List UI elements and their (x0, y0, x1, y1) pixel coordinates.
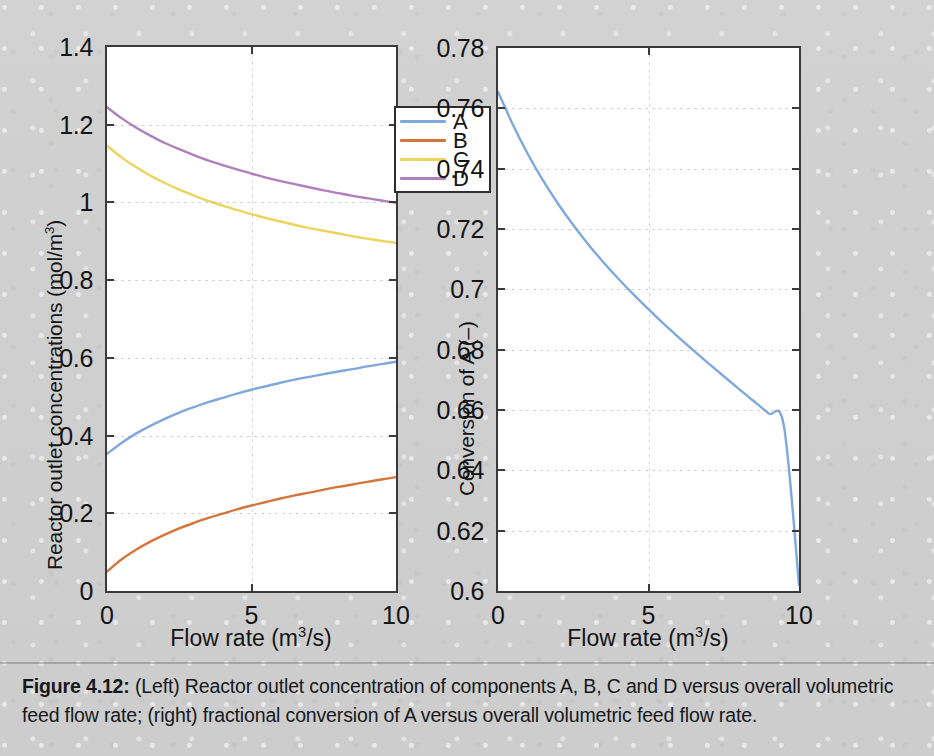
axis-tick (389, 512, 396, 514)
x-tick-label: 0 (491, 601, 505, 630)
axis-tick (251, 47, 253, 54)
axis-tick (498, 228, 505, 230)
y-tick-label: 0.62 (400, 516, 484, 545)
axis-tick (107, 435, 114, 437)
gridline-vertical (252, 47, 253, 591)
axis-tick (792, 409, 799, 411)
axis-tick (107, 201, 114, 203)
x-tick-label: 10 (785, 601, 813, 630)
axis-tick (389, 279, 396, 281)
right-plot-y-axis-label: Conversion of A (–) (455, 321, 479, 496)
axis-tick (107, 357, 114, 359)
axis-tick (389, 201, 396, 203)
left-plot-x-axis-label: Flow rate (m3/s) (170, 624, 332, 652)
right-plot-panel (496, 46, 801, 593)
axis-tick (792, 228, 799, 230)
axis-tick (498, 288, 505, 290)
figure-caption-label: Figure 4.12: (22, 675, 130, 697)
axis-tick (792, 349, 799, 351)
axis-tick (792, 107, 799, 109)
y-tick-label: 0.6 (400, 577, 484, 606)
y-tick-label: 0.7 (400, 275, 484, 304)
axis-tick (648, 584, 650, 591)
axis-tick (792, 288, 799, 290)
y-tick-label: 1.4 (0, 33, 93, 62)
caption-divider (0, 662, 934, 664)
figure-caption-text: (Left) Reactor outlet concentration of c… (22, 675, 893, 726)
gridline-vertical (649, 48, 650, 591)
axis-tick (498, 168, 505, 170)
left-plot-y-axis-label: Reactor outlet concentrations (mol/m3) (42, 220, 67, 570)
axis-tick (792, 530, 799, 532)
y-tick-label: 0.76 (400, 94, 484, 123)
x-tick-label: 0 (100, 601, 114, 630)
y-tick-label: 0.72 (400, 215, 484, 244)
axis-tick (498, 349, 505, 351)
y-tick-label: 0.74 (400, 154, 484, 183)
axis-tick (389, 435, 396, 437)
left-plot-panel: ABCD (105, 45, 398, 593)
figure-page: ABCD 00.20.40.60.811.21.4 0510 Reactor o… (0, 0, 934, 756)
axis-tick (498, 107, 505, 109)
axis-tick (498, 409, 505, 411)
legend-item-b: B (400, 131, 484, 150)
axis-tick (498, 469, 505, 471)
axis-tick (389, 357, 396, 359)
axis-tick (648, 48, 650, 55)
axis-tick (107, 124, 114, 126)
figure-area: ABCD 00.20.40.60.811.21.4 0510 Reactor o… (0, 0, 934, 662)
axis-tick (107, 279, 114, 281)
axis-tick (107, 512, 114, 514)
axis-tick (498, 530, 505, 532)
right-plot-x-axis-label: Flow rate (m3/s) (567, 624, 729, 652)
figure-caption: Figure 4.12: (Left) Reactor outlet conce… (22, 672, 918, 730)
axis-tick (792, 469, 799, 471)
y-tick-label: 0.78 (400, 34, 484, 63)
y-tick-label: 1.2 (0, 110, 93, 139)
axis-tick (792, 168, 799, 170)
axis-tick (251, 584, 253, 591)
legend-swatch-b (400, 139, 446, 142)
y-tick-label: 1 (0, 188, 93, 217)
y-tick-label: 0 (0, 577, 93, 606)
